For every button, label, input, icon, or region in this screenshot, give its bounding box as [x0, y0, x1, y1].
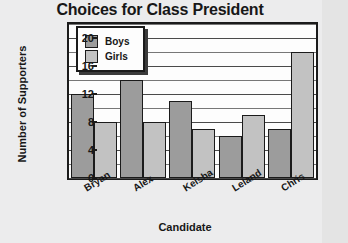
y-tick-mark — [92, 65, 97, 67]
bar-group — [168, 24, 217, 178]
bar-chart: Choices for Class President Number of Su… — [0, 0, 348, 243]
bar-alex-boys — [120, 80, 143, 178]
bar-group — [267, 24, 316, 178]
bar-chris-boys — [268, 129, 291, 178]
y-tick-label: 20 — [54, 32, 94, 44]
legend-label-girls: Girls — [105, 51, 128, 62]
page-edge — [322, 0, 348, 243]
y-tick-mark — [92, 37, 97, 39]
y-tick-label: 16 — [54, 60, 94, 72]
bar-alex-girls — [143, 122, 166, 178]
bar-chris-girls — [291, 52, 314, 178]
chart-title: Choices for Class President — [0, 1, 320, 19]
y-tick-mark — [92, 93, 97, 95]
legend-label-boys: Boys — [105, 36, 129, 47]
bar-leland-boys — [219, 136, 242, 178]
bar-bryan-boys — [71, 94, 94, 178]
y-tick-mark — [92, 149, 97, 151]
y-tick-label: 8 — [54, 116, 94, 128]
bar-group — [217, 24, 266, 178]
y-tick-label: 12 — [54, 88, 94, 100]
y-tick-mark — [92, 121, 97, 123]
y-tick-label: 4 — [54, 144, 94, 156]
x-axis-title: Candidate — [60, 221, 310, 233]
y-axis-title: Number of Supporters — [16, 24, 28, 184]
bar-keisha-boys — [169, 101, 192, 178]
